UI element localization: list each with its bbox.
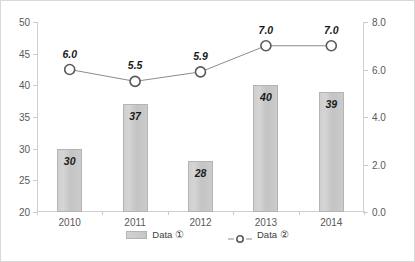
left-axis-tick-label: 20	[19, 207, 30, 218]
bar-swatch-icon	[126, 231, 147, 239]
right-axis-tick-label: 8.0	[372, 17, 386, 28]
line-marker[interactable]	[196, 67, 206, 77]
left-axis-tick-label: 45	[19, 48, 30, 59]
chart-container: 50454035302520 8.06.04.02.00.0 201020112…	[0, 0, 415, 262]
right-axis-tick-label: 6.0	[372, 64, 386, 75]
line-data-label: 7.0	[259, 24, 274, 36]
left-axis-tick-label: 25	[19, 175, 30, 186]
left-axis-tick-label: 35	[19, 112, 30, 123]
left-axis-tick-label: 50	[19, 17, 30, 28]
x-axis-tick-label: 2013	[255, 217, 277, 228]
right-axis-tick-label: 4.0	[372, 112, 386, 123]
left-axis-tick-label: 40	[19, 80, 30, 91]
legend-item-data-2[interactable]: Data ②	[228, 229, 289, 240]
line-marker[interactable]	[261, 41, 271, 51]
x-axis-tick-label: 2012	[189, 217, 211, 228]
x-tick-mark	[364, 211, 365, 215]
plot-area: 50454035302520 8.06.04.02.00.0 201020112…	[37, 22, 364, 212]
line-markers	[65, 41, 337, 87]
x-axis-tick-label: 2011	[124, 217, 146, 228]
line-marker[interactable]	[326, 41, 336, 51]
x-axis-tick-label: 2014	[320, 217, 342, 228]
left-axis-tick-label: 30	[19, 143, 30, 154]
line-data-label: 5.9	[193, 50, 208, 62]
x-axis-tick-label: 2010	[59, 217, 81, 228]
line-data-label: 5.5	[128, 59, 143, 71]
legend-label-data-1: Data ①	[152, 229, 184, 240]
line-marker-swatch-icon	[228, 230, 252, 240]
chart-legend: Data ① Data ②	[1, 229, 414, 240]
line-data-label: 7.0	[324, 24, 339, 36]
line-marker[interactable]	[65, 65, 75, 75]
line-marker[interactable]	[130, 76, 140, 86]
line-data-label: 6.0	[62, 48, 77, 60]
legend-item-data-1[interactable]: Data ①	[126, 229, 184, 240]
right-axis-tick-label: 2.0	[372, 159, 386, 170]
legend-label-data-2: Data ②	[257, 229, 289, 240]
right-axis-tick-label: 0.0	[372, 207, 386, 218]
